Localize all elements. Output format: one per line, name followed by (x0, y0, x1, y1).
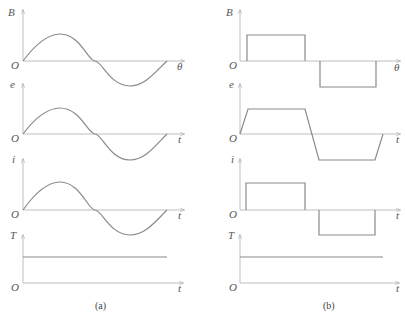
square-pulse-positive (247, 35, 305, 61)
x-label: t (178, 133, 182, 145)
y-label: B (8, 6, 15, 18)
origin-label: O (229, 59, 237, 71)
caption-a: (a) (95, 300, 106, 312)
y-label: B (226, 6, 233, 18)
plot-a-i: i O t (11, 153, 184, 235)
y-label: i (12, 153, 15, 165)
origin-label: O (229, 132, 237, 144)
x-label: t (396, 133, 400, 145)
sine-curve (23, 182, 167, 235)
plot-b-B: B O θ (226, 6, 400, 87)
y-label: e (229, 78, 234, 90)
plot-b-i: i O t (229, 153, 400, 235)
x-label: t (396, 209, 400, 221)
x-label: t (396, 282, 400, 294)
origin-label: O (11, 208, 19, 220)
plot-a-B: B O θ (8, 6, 184, 86)
y-label: e (10, 78, 15, 90)
plot-b-T: T O t (228, 229, 400, 294)
plot-a-T: T O t (10, 229, 183, 294)
y-label: T (10, 229, 17, 241)
trapezoid-curve (240, 109, 383, 160)
square-pulse-negative (320, 61, 376, 87)
y-label: T (228, 229, 235, 241)
x-label: t (178, 282, 182, 294)
sine-curve (23, 34, 167, 86)
square-pulse-negative (319, 210, 375, 235)
square-pulse-positive (246, 183, 305, 210)
y-label: i (231, 153, 234, 165)
plot-a-e: e O t (10, 78, 184, 160)
origin-label: O (229, 208, 237, 220)
caption-b: (b) (323, 300, 335, 312)
origin-label: O (11, 59, 19, 71)
origin-label: O (11, 281, 19, 293)
panel-a: B O θ e O t i O t T O t (8, 6, 184, 312)
x-label: θ (177, 60, 183, 72)
waveform-figure: B O θ e O t i O t T O t (0, 0, 405, 318)
origin-label: O (11, 132, 19, 144)
origin-label: O (229, 281, 237, 293)
plot-b-e: e O t (229, 78, 400, 160)
x-label: t (178, 209, 182, 221)
x-label: θ (394, 61, 400, 73)
panel-b: B O θ e O t i O t T O (226, 6, 400, 312)
